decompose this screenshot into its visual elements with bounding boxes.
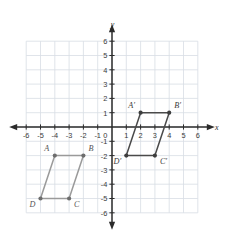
- vertex-label-D-prime: D′: [113, 157, 122, 166]
- y-tick-label: -2: [101, 152, 108, 161]
- y-tick-label: -4: [101, 180, 108, 189]
- vertex-point-C: [67, 196, 71, 200]
- y-tick-label: 6: [103, 37, 107, 46]
- polygon-image: [126, 113, 169, 156]
- vertex-point-D: [38, 196, 42, 200]
- vertex-point-A: [53, 154, 57, 158]
- x-tick-label: 2: [139, 131, 143, 140]
- vertex-label-A-prime: A′: [127, 101, 135, 110]
- x-tick-label: 5: [181, 131, 185, 140]
- vertex-point-B: [81, 154, 85, 158]
- vertex-point-A-prime: [139, 111, 143, 115]
- vertex-label-B: B: [88, 144, 93, 153]
- y-tick-label: 1: [103, 109, 107, 118]
- vertex-label-B-prime: B′: [174, 101, 181, 110]
- vertex-point-B-prime: [167, 111, 171, 115]
- diagram-canvas: -6-5-4-3-2-1123456654321-1-2-3-4-5-60 AB…: [0, 0, 235, 248]
- vertex-label-A: A: [43, 144, 50, 153]
- vertex-point-C-prime: [153, 154, 157, 158]
- axis-arrow-right: [207, 124, 215, 130]
- y-axis-label: y: [110, 20, 115, 29]
- coordinate-plane: -6-5-4-3-2-1123456654321-1-2-3-4-5-60 AB…: [0, 0, 235, 248]
- x-tick-label: -2: [80, 131, 87, 140]
- origin-label: 0: [103, 131, 107, 140]
- x-tick-label: -6: [23, 131, 30, 140]
- y-tick-label: -3: [101, 166, 108, 175]
- polygon-preimage: [41, 156, 84, 199]
- vertex-label-C-prime: C′: [160, 157, 167, 166]
- x-tick-label: -5: [37, 131, 44, 140]
- y-tick-label: 2: [103, 94, 107, 103]
- vertex-point-D-prime: [124, 154, 128, 158]
- x-axis-label: x: [214, 123, 219, 132]
- vertex-label-C: C: [74, 200, 80, 209]
- x-tick-label: -3: [66, 131, 73, 140]
- x-tick-label: 3: [153, 131, 157, 140]
- axis-arrow-down: [109, 222, 115, 230]
- x-tick-label: 4: [167, 131, 171, 140]
- y-tick-label: 4: [103, 66, 107, 75]
- x-tick-label: 1: [124, 131, 128, 140]
- x-tick-label: -4: [52, 131, 59, 140]
- x-tick-label: 6: [196, 131, 200, 140]
- y-tick-label: -6: [101, 209, 108, 218]
- y-tick-label: 5: [103, 51, 107, 60]
- axis-arrow-left: [9, 124, 17, 130]
- y-tick-label: 3: [103, 80, 107, 89]
- vertex-label-D: D: [29, 200, 36, 209]
- y-tick-label: -5: [101, 194, 108, 203]
